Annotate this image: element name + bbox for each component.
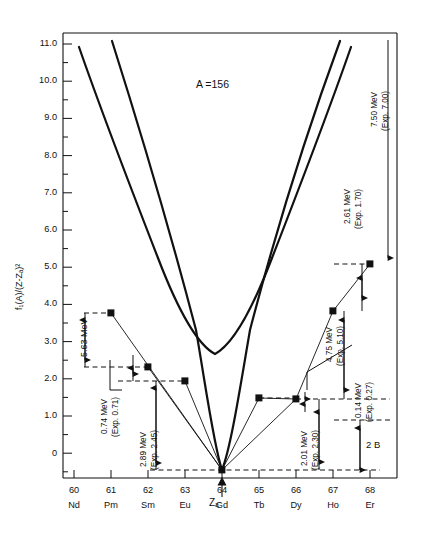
y-tick-3: 3.0: [23, 336, 57, 346]
curve-odd-odd: [79, 47, 351, 354]
y-tick-7: 7.0: [23, 187, 57, 197]
curve-even-even: [112, 41, 340, 470]
x-tick-symbol-sm: Sm: [133, 500, 163, 510]
y-tick-6: 6.0: [23, 224, 57, 234]
point-pm-61: [107, 309, 114, 316]
point-gd-64: [218, 466, 225, 473]
y-axis-label: f₁(A)/(Z-Zₐ)²: [14, 264, 24, 310]
annotation-0-14-exp: (Exp. 0.27): [366, 382, 374, 422]
annotation-2b-value: 2 B: [366, 440, 380, 450]
y-tick-9: 9.0: [23, 112, 57, 122]
annotation-2-61-exp: (Exp. 1.70): [355, 189, 363, 229]
x-tick-symbol-ho: Ho: [318, 500, 348, 510]
x-tick-symbol-pm: Pm: [96, 500, 126, 510]
y-tick-5: 5.0: [23, 261, 57, 271]
x-tick-number-63: 63: [170, 485, 200, 495]
y-axis-ticks: [63, 44, 72, 472]
x-axis-label: Zₐ: [209, 497, 219, 508]
x-tick-number-65: 65: [244, 485, 274, 495]
x-tick-symbol-tb: Tb: [244, 500, 274, 510]
annotation-2-61-value: 2.61 MeV: [344, 189, 352, 224]
annotation-0-74-exp: (Exp. 0.71): [112, 397, 120, 437]
leader-0-74: [110, 360, 122, 390]
annotation-2-89-value: 2.89 MeV: [140, 432, 148, 467]
x-tick-symbol-er: Er: [355, 500, 385, 510]
point-ho-67: [329, 307, 336, 314]
x-tick-symbol-nd: Nd: [59, 500, 89, 510]
annotation-2-01-exp: (Exp. 2.30): [312, 430, 320, 470]
x-tick-number-68: 68: [355, 485, 385, 495]
x-tick-number-64: 64: [207, 485, 237, 495]
annotation-7-50-exp: (Exp. 7.00): [382, 91, 390, 131]
y-tick-0: 0: [23, 448, 57, 458]
x-tick-number-67: 67: [318, 485, 348, 495]
annotation-4-75-exp: (Exp. 5.10): [337, 326, 345, 366]
chart-title: A =156: [196, 78, 229, 90]
x-tick-number-60: 60: [59, 485, 89, 495]
annotation-0-74-value: 0.74 MeV: [101, 399, 109, 434]
y-tick-8: 8.0: [23, 150, 57, 160]
annotation-5-63-value: 5.63 MeV: [80, 318, 89, 357]
y-tick-1: 1.0: [23, 410, 57, 420]
figure-canvas: 11.0 10.0 9.0 8.0 7.0 6.0 5.0 4.0 3.0 2.…: [0, 0, 422, 536]
x-tick-number-66: 66: [281, 485, 311, 495]
y-tick-11: 11.0: [23, 38, 57, 48]
x-tick-symbol-eu: Eu: [170, 500, 200, 510]
annotation-4-75-value: 4.75 MeV: [326, 327, 334, 362]
x-tick-symbol-dy: Dy: [281, 500, 311, 510]
annotation-2-89-exp: (Exp. 2.45): [151, 430, 159, 470]
y-tick-4: 4.0: [23, 298, 57, 308]
x-tick-number-62: 62: [133, 485, 163, 495]
annotation-7-50-value: 7.50 MeV: [371, 92, 379, 127]
annotation-0-14-value: 0.14 MeV: [355, 383, 363, 418]
y-tick-10: 10.0: [23, 75, 57, 85]
y-tick-2: 2.0: [23, 373, 57, 383]
annotation-2-01-value: 2.01 MeV: [301, 431, 309, 466]
x-tick-number-61: 61: [96, 485, 126, 495]
